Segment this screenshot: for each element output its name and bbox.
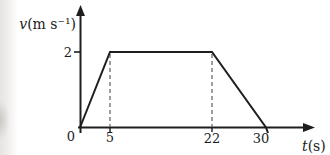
y-axis-label-variable: v xyxy=(19,16,27,32)
velocity-time-graph: v(m s⁻¹) t(s) 0 2 5 22 30 xyxy=(0,0,330,155)
scanned-graph-page: v(m s⁻¹) t(s) 0 2 5 22 30 xyxy=(0,0,330,155)
y-axis-arrow-icon xyxy=(76,5,85,16)
x-tick-label-22: 22 xyxy=(204,131,221,146)
x-tick-label-5: 5 xyxy=(106,130,114,145)
velocity-curve xyxy=(80,52,268,133)
y-axis-label-unit: (m s⁻¹) xyxy=(27,16,76,32)
x-axis-label: t(s) xyxy=(302,138,326,154)
x-axis-label-unit: (s) xyxy=(308,138,326,154)
y-axis-label: v(m s⁻¹) xyxy=(19,16,76,32)
x-axis-arrow-icon xyxy=(303,123,315,132)
scan-edge-artifact xyxy=(0,0,18,155)
origin-tick-label: 0 xyxy=(67,129,75,144)
y-tick-label-2: 2 xyxy=(64,45,72,60)
x-tick-label-30: 30 xyxy=(253,131,270,146)
